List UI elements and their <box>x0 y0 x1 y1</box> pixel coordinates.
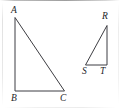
vertex-label-t: T <box>100 66 105 76</box>
triangle-rst-shape <box>86 26 107 65</box>
geometry-figure: A B C R S T <box>0 0 120 109</box>
vertex-label-c: C <box>60 93 66 103</box>
vertex-label-s: S <box>82 66 87 76</box>
vertex-label-r: R <box>102 11 108 21</box>
vertex-label-b: B <box>11 93 17 103</box>
vertex-label-a: A <box>11 5 17 15</box>
triangle-abc-shape <box>15 18 64 91</box>
